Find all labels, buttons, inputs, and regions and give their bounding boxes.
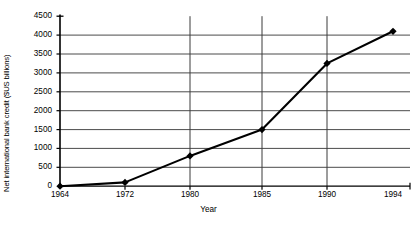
x-axis-title: Year [0, 205, 417, 214]
x-tick-label: 1972 [105, 191, 145, 199]
x-tick-label: 1994 [373, 191, 413, 199]
x-axis-tick-labels: 1964 1972 1980 1985 1990 1994 [0, 191, 417, 205]
horizontal-gridlines [60, 35, 410, 167]
x-tick-label: 1990 [307, 191, 347, 199]
data-point-markers [56, 28, 396, 190]
data-line-series-0 [60, 31, 393, 186]
chart-container: Net international bank credit ($US billi… [0, 0, 417, 225]
y-axis-line [57, 15, 64, 187]
x-tick-label: 1980 [170, 191, 210, 199]
x-tick-label: 1985 [242, 191, 282, 199]
vertical-gridlines [190, 16, 327, 186]
x-tick-label: 1964 [40, 191, 80, 199]
